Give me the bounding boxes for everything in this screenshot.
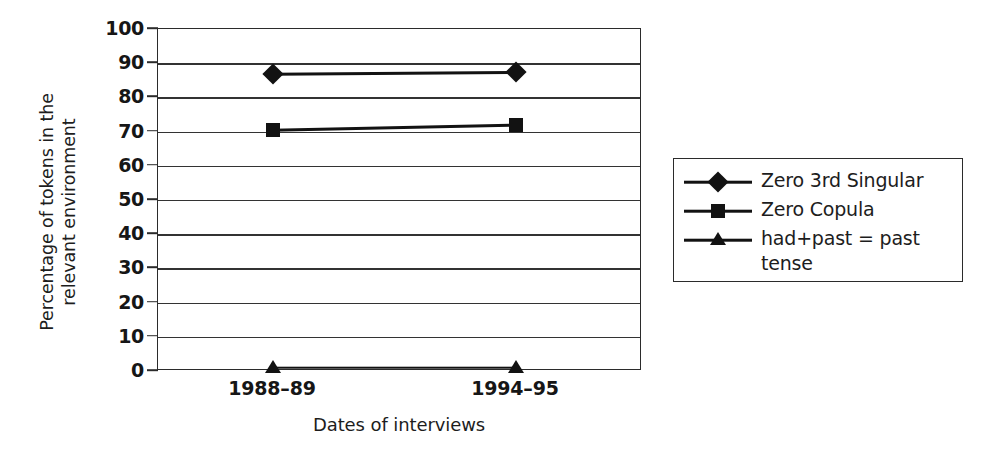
series-line xyxy=(273,366,516,369)
gridline xyxy=(158,234,640,235)
legend-key-square xyxy=(684,198,752,224)
gridline xyxy=(158,200,640,201)
legend-label: had+past = past tense xyxy=(752,226,920,276)
chart-legend: Zero 3rd Singular Zero Copula had+past =… xyxy=(673,158,963,282)
series-line xyxy=(273,71,516,75)
legend-label: Zero 3rd Singular xyxy=(752,168,923,193)
chart-figure: Percentage of tokens in the relevant env… xyxy=(0,0,984,457)
y-tick-label: 40 xyxy=(88,224,144,243)
gridline xyxy=(158,337,640,338)
y-tick-label: 80 xyxy=(88,87,144,106)
gridline xyxy=(158,63,640,64)
y-tick-label: 50 xyxy=(88,190,144,209)
y-tick-label: 20 xyxy=(88,292,144,311)
y-tick-label: 70 xyxy=(88,121,144,140)
data-point-marker xyxy=(508,360,524,373)
data-point-marker xyxy=(266,123,280,137)
gridline xyxy=(158,132,640,133)
legend-item-zero-3rd-singular: Zero 3rd Singular xyxy=(674,168,962,195)
triangle-marker-icon xyxy=(710,232,726,245)
data-point-marker xyxy=(265,360,281,373)
x-tick-label: 1994–95 xyxy=(471,378,558,398)
diamond-marker-icon xyxy=(707,171,728,192)
y-tick-label: 100 xyxy=(88,19,144,38)
legend-item-zero-copula: Zero Copula xyxy=(674,197,962,224)
y-axis-tick-labels: 100 90 80 70 60 50 40 30 20 10 0 xyxy=(88,28,144,370)
y-tick-label: 0 xyxy=(88,361,144,380)
gridline xyxy=(158,268,640,269)
gridline xyxy=(158,166,640,167)
legend-label: Zero Copula xyxy=(752,197,874,222)
y-tick-label: 60 xyxy=(88,155,144,174)
plot-area xyxy=(157,28,641,370)
series-line xyxy=(273,123,516,131)
square-marker-icon xyxy=(711,204,725,218)
legend-key-diamond xyxy=(684,169,752,195)
data-point-marker xyxy=(509,118,523,132)
legend-item-had-past-equals-past-tense: had+past = past tense xyxy=(674,226,962,276)
data-point-marker xyxy=(262,63,283,84)
y-tick-label: 90 xyxy=(88,53,144,72)
y-tick-label: 10 xyxy=(88,326,144,345)
x-tick-label: 1988–89 xyxy=(228,378,315,398)
x-axis-title: Dates of interviews xyxy=(157,414,641,435)
gridline xyxy=(158,97,640,98)
y-axis-title: Percentage of tokens in the relevant env… xyxy=(36,32,80,392)
gridline xyxy=(158,303,640,304)
legend-key-triangle xyxy=(684,227,752,253)
y-tick-label: 30 xyxy=(88,258,144,277)
